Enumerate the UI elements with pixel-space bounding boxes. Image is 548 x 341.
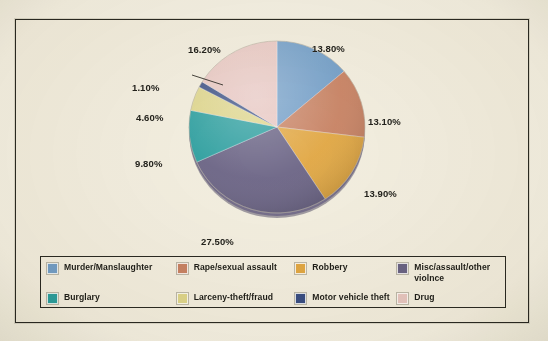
legend-label: Motor vehicle theft	[312, 292, 389, 303]
legend-label: Drug	[414, 292, 434, 303]
legend-swatch-icon	[177, 263, 188, 274]
chart-legend: Murder/Manslaughter Rape/sexual assault …	[40, 256, 506, 308]
legend-swatch-icon	[397, 263, 408, 274]
chart-frame: 13.80% 13.10% 13.90% 27.50% 9.80% 4.60% …	[15, 19, 529, 323]
pie-shading	[189, 41, 365, 213]
legend-swatch-icon	[397, 293, 408, 304]
legend-item-robbery[interactable]: Robbery	[295, 262, 397, 274]
scanned-page: 13.80% 13.10% 13.90% 27.50% 9.80% 4.60% …	[0, 0, 548, 341]
slice-label-burglary: 9.80%	[135, 158, 162, 169]
legend-item-larceny-theft-fraud[interactable]: Larceny-theft/fraud	[177, 292, 296, 304]
legend-label: Rape/sexual assault	[194, 262, 277, 273]
pie-graphic	[188, 28, 366, 224]
legend-item-drug[interactable]: Drug	[397, 292, 501, 304]
legend-swatch-icon	[295, 263, 306, 274]
slice-label-murder-manslaughter: 13.80%	[312, 43, 345, 54]
legend-item-burglary[interactable]: Burglary	[47, 292, 177, 304]
legend-label: Misc/assault/other violnce	[414, 262, 501, 283]
legend-item-rape-sexual-assault[interactable]: Rape/sexual assault	[177, 262, 296, 274]
legend-swatch-icon	[177, 293, 188, 304]
legend-item-misc-assault-other-violnce[interactable]: Misc/assault/other violnce	[397, 262, 501, 283]
legend-label: Murder/Manslaughter	[64, 262, 152, 273]
slice-label-drug: 16.20%	[188, 44, 221, 55]
pie-svg	[188, 28, 366, 224]
pie-chart: 13.80% 13.10% 13.90% 27.50% 9.80% 4.60% …	[16, 20, 530, 252]
legend-swatch-icon	[47, 293, 58, 304]
legend-row: Burglary Larceny-theft/fraud Motor vehic…	[47, 292, 501, 314]
legend-row: Murder/Manslaughter Rape/sexual assault …	[47, 262, 501, 284]
legend-item-murder-manslaughter[interactable]: Murder/Manslaughter	[47, 262, 177, 274]
legend-swatch-icon	[295, 293, 306, 304]
slice-label-motor-vehicle-theft: 1.10%	[132, 82, 159, 93]
slice-label-rape-sexual-assault: 13.10%	[368, 116, 401, 127]
legend-swatch-icon	[47, 263, 58, 274]
legend-label: Burglary	[64, 292, 100, 303]
slice-label-misc-assault-other-violnce: 27.50%	[201, 236, 234, 247]
legend-label: Larceny-theft/fraud	[194, 292, 273, 303]
legend-item-motor-vehicle-theft[interactable]: Motor vehicle theft	[295, 292, 397, 304]
slice-label-robbery: 13.90%	[364, 188, 397, 199]
legend-label: Robbery	[312, 262, 347, 273]
slice-label-larceny-theft-fraud: 4.60%	[136, 112, 163, 123]
